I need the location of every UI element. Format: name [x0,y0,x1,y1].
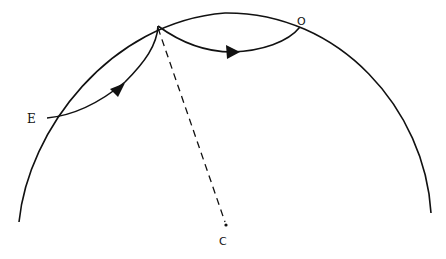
label-c: C [219,236,227,247]
diagram-svg [0,0,446,259]
radius-dashed-line [158,28,225,222]
diagram-canvas: E O C [0,0,446,259]
arrow-icon-o-path [226,45,240,59]
outer-arc [19,13,431,222]
label-e: E [27,113,36,125]
label-o: O [297,16,306,27]
center-point [224,223,227,226]
arrow-icon-e-path [110,83,125,97]
path-e-to-apex [47,26,158,118]
